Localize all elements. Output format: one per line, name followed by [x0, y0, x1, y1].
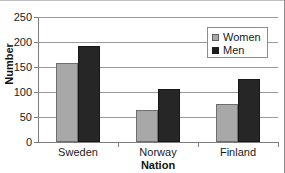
chart-legend: Women Men [207, 27, 268, 58]
y-axis-tick [34, 67, 38, 68]
y-axis-tick [34, 42, 38, 43]
chart-screenshot: Number 050100150200250 SwedenNorwayFinla… [0, 0, 285, 173]
x-axis-tick-label: Sweden [43, 146, 113, 158]
x-axis-tick [278, 142, 279, 147]
x-axis-tick-label: Norway [123, 146, 193, 158]
y-axis-tick-labels: 050100150200250 [0, 17, 34, 143]
frame-right-border [284, 0, 285, 173]
y-axis-tick-label: 50 [2, 112, 32, 123]
men-swatch-icon [212, 47, 219, 54]
bar-norway-men [158, 89, 180, 142]
y-axis-tick-label: 150 [2, 62, 32, 73]
x-axis-tick-label: Finland [203, 146, 273, 158]
y-axis-tick [34, 117, 38, 118]
legend-label-women: Women [223, 32, 261, 43]
x-axis-tick-labels: SwedenNorwayFinland [38, 146, 278, 160]
y-axis-tick-label: 200 [2, 37, 32, 48]
y-axis-tick [34, 92, 38, 93]
bar-sweden-men [78, 46, 100, 142]
bar-finland-men [238, 79, 260, 143]
bar-sweden-women [56, 63, 78, 142]
gridline [38, 142, 278, 143]
y-axis-tick-label: 0 [2, 137, 32, 148]
legend-item-women: Women [212, 31, 263, 43]
y-axis-tick [34, 142, 38, 143]
y-axis-tick [34, 17, 38, 18]
bar-finland-women [216, 104, 238, 142]
y-axis-tick-label: 100 [2, 87, 32, 98]
legend-item-men: Men [212, 44, 263, 56]
women-swatch-icon [212, 34, 219, 41]
x-axis-title: Nation [38, 159, 278, 171]
bar-norway-women [136, 110, 158, 142]
y-axis-tick-label: 250 [2, 12, 32, 23]
frame-top-border [0, 0, 285, 1]
gridline [38, 17, 278, 18]
legend-label-men: Men [223, 45, 244, 56]
